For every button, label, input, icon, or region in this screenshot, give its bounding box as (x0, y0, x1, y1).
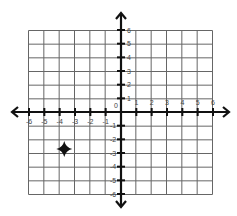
coordinate-plane: 123456-6-5-4-3-2-1123456-1-2-3-4-5-60 (0, 0, 237, 216)
x-label: 3 (165, 99, 169, 106)
x-label: 1 (134, 99, 138, 106)
y-label: -1 (110, 122, 116, 129)
x-label: 6 (211, 99, 215, 106)
x-label: 4 (180, 99, 184, 106)
y-label: -2 (110, 136, 116, 143)
y-label: 2 (127, 81, 131, 88)
origin-label: 0 (114, 102, 118, 109)
y-label: 4 (127, 54, 131, 61)
axes (12, 13, 229, 207)
y-label: 6 (127, 27, 131, 34)
x-label: -4 (57, 118, 63, 125)
y-label: 3 (127, 68, 131, 75)
x-label: -3 (72, 118, 78, 125)
x-label: -6 (26, 118, 32, 125)
x-label: -1 (103, 118, 109, 125)
y-label: -5 (110, 177, 116, 184)
x-label: 5 (196, 99, 200, 106)
x-label: -5 (41, 118, 47, 125)
y-label: 1 (127, 95, 131, 102)
y-label: -3 (110, 150, 116, 157)
y-label: 5 (127, 40, 131, 47)
x-label: 2 (150, 99, 154, 106)
y-label: -6 (110, 191, 116, 198)
x-label: -2 (87, 118, 93, 125)
y-label: -4 (110, 163, 116, 170)
